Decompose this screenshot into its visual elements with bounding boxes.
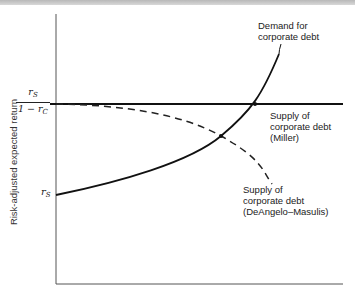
y-tick-lower: rS <box>41 186 51 199</box>
demand-label: Demand for corporate debt <box>258 20 319 42</box>
dm-label-line3: (DeAngelo–Masulis) <box>243 206 329 217</box>
y-tick-upper-denominator: 1 − rC <box>16 103 50 118</box>
y-tick-upper: rS 1 − rC <box>16 86 50 118</box>
miller-label-line2: corporate debt <box>270 121 331 132</box>
deangelo-masulis-label: Supply of corporate debt (DeAngelo–Masul… <box>243 184 329 217</box>
plot-area <box>0 0 355 288</box>
intersection-miller <box>253 102 257 106</box>
demand-label-line1: Demand for <box>258 20 319 31</box>
demand-leader-line <box>279 44 281 54</box>
miller-label-line3: (Miller) <box>270 132 331 143</box>
y-tick-upper-numerator: rS <box>16 86 50 103</box>
deangelo-masulis-supply-curve <box>56 104 272 184</box>
miller-label: Supply of corporate debt (Miller) <box>270 110 331 143</box>
miller-label-line1: Supply of <box>270 110 331 121</box>
intersection-deangelo-masulis <box>219 134 223 138</box>
dm-label-line2: corporate debt <box>243 195 329 206</box>
demand-curve <box>56 54 279 195</box>
dm-label-line1: Supply of <box>243 184 329 195</box>
demand-label-line2: corporate debt <box>258 31 319 42</box>
